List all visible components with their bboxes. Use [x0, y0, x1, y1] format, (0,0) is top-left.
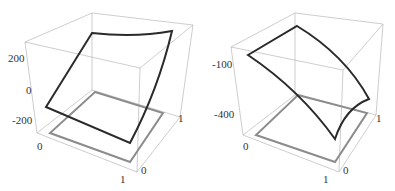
right-plot: -100 -400 0 1 0 1: [212, 13, 383, 185]
left-y-tick-1: 1: [178, 112, 184, 124]
left-z-tick-0: 0: [26, 84, 32, 96]
right-x-tick-0: 0: [243, 140, 249, 152]
figure: 200 0 -200 0 1 0 1 -100 -400 0 1 0 1: [0, 0, 395, 191]
right-z-tick-neg400: -400: [214, 108, 235, 120]
right-projection: [256, 95, 367, 162]
left-x-tick-1: 1: [120, 173, 126, 185]
right-box: [231, 13, 383, 172]
right-x-tick-1: 1: [323, 173, 329, 185]
left-z-tick-neg200: -200: [12, 114, 33, 126]
left-projection: [50, 92, 163, 162]
left-z-tick-200: 200: [8, 52, 25, 64]
left-plot: 200 0 -200 0 1 0 1: [8, 13, 193, 185]
right-y-tick-0: 0: [343, 164, 349, 176]
right-surface-boundary: [248, 26, 369, 139]
left-x-tick-0: 0: [37, 140, 43, 152]
left-y-tick-0: 0: [141, 164, 147, 176]
left-box: [25, 13, 193, 172]
right-y-tick-1: 1: [376, 112, 382, 124]
right-z-tick-neg100: -100: [212, 58, 233, 70]
